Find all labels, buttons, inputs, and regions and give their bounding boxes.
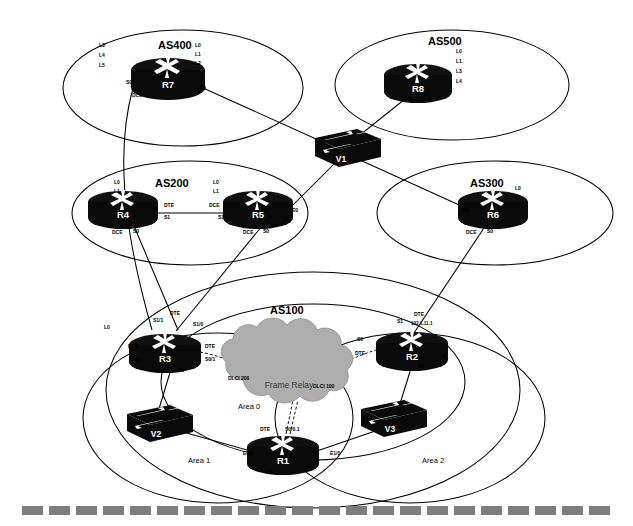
router-r4-label: R4: [117, 209, 130, 220]
iface-r1-e10: E1/0: [330, 450, 341, 456]
router-r8-label: R8: [412, 83, 424, 94]
footer-dash-segment: [373, 506, 394, 515]
iface-r6-dce: DCE: [466, 229, 477, 235]
router-r6-label: R6: [487, 209, 499, 220]
switch-v2[interactable]: V2: [127, 404, 193, 442]
label-dlci-100: DLCI 100: [313, 383, 335, 389]
iface-r7-l1: L1: [195, 51, 201, 57]
title-as400: AS400: [158, 39, 192, 51]
iface-r2-s0: S0: [357, 336, 363, 342]
footer-dash-segment: [238, 506, 259, 515]
iface-r8-e0: E0: [406, 96, 412, 102]
iface-r1-s001: S0/0.1: [285, 426, 300, 432]
router-r5-label: R5: [252, 209, 265, 220]
cloud-shape: [221, 318, 352, 403]
title-as300: AS300: [470, 177, 504, 189]
iface-r3-s10: S1/0: [193, 321, 204, 327]
iface-r2-s1: S1: [397, 318, 403, 324]
iface-r1-e00: E0/0: [243, 450, 254, 456]
footer-dash-segment: [535, 506, 556, 515]
iface-r3-e0: E0: [178, 367, 184, 373]
topology-canvas: Frame Relay R7 R8: [0, 0, 633, 526]
footer-dash-segment: [292, 506, 313, 515]
link-r6-v1: [360, 160, 468, 209]
iface-r5-s1: S1: [218, 214, 224, 220]
footer-dash-segment: [103, 506, 124, 515]
router-r5[interactable]: R5: [223, 190, 293, 229]
iface-r3-dte-right: DTE: [205, 343, 216, 349]
switch-v1-label: V1: [336, 154, 347, 164]
iface-r2-dte-top: DTE: [414, 311, 425, 317]
iface-r6-l1: L1: [515, 194, 521, 200]
iface-r3-dte-left: DTE: [128, 343, 139, 349]
title-as100: AS100: [270, 304, 304, 316]
router-r1-label: R1: [277, 455, 290, 466]
iface-r5-l0: L0: [213, 179, 219, 185]
router-r1[interactable]: R1: [247, 435, 319, 475]
iface-r8-l4: L4: [456, 78, 462, 84]
footer-dash-segment: [265, 506, 286, 515]
iface-r8-l3: L3: [456, 68, 462, 74]
frame-relay-cloud: Frame Relay: [221, 318, 352, 403]
router-r2[interactable]: R2: [376, 331, 448, 371]
iface-r7-l5: L5: [99, 62, 105, 68]
iface-r4-s1: S1: [164, 214, 170, 220]
iface-r4-s0: S0: [133, 228, 139, 234]
router-r3-label: R3: [159, 353, 171, 364]
footer-dash-segment: [22, 506, 43, 515]
title-as500: AS500: [428, 35, 462, 47]
router-r7-label: R7: [162, 79, 174, 90]
iface-r2-ip: 192.1.11.1: [411, 321, 433, 326]
footer-dash-segment: [589, 506, 610, 515]
iface-r3-s11: S1/1: [153, 317, 164, 323]
footer-dash-segment: [481, 506, 502, 515]
iface-r6-e0: E0: [463, 207, 469, 213]
router-r2-label: R2: [406, 351, 418, 362]
footer-dash-segment: [49, 506, 70, 515]
iface-r8-l0: L0: [456, 48, 462, 54]
label-dlci-200: DLCI 200: [228, 375, 250, 381]
iface-r7-e0: E0: [200, 85, 206, 91]
iface-r6-l0: L0: [515, 185, 521, 191]
label-area1: Area 1: [188, 456, 210, 465]
iface-r7-l2: L2: [195, 60, 201, 66]
switch-v3[interactable]: V3: [361, 399, 427, 437]
footer-dash-segment: [400, 506, 421, 515]
iface-r3-s00: S0/0: [130, 356, 141, 362]
footer-dash-segment: [427, 506, 448, 515]
iface-r2-dte-left: DTE: [355, 350, 366, 356]
switch-v1[interactable]: V1: [315, 128, 381, 167]
switch-v3-label: V3: [385, 424, 396, 434]
link-r7-v1: [203, 88, 325, 143]
link-r6-r2: [414, 228, 484, 333]
link-r5-r3: [176, 226, 262, 331]
iface-r8-l1: L1: [456, 58, 462, 64]
router-r3[interactable]: R3: [129, 333, 201, 373]
iface-r3-s01: S0/1: [205, 356, 216, 362]
iface-r7-dce: DCE: [132, 92, 143, 98]
switch-v2-label: V2: [151, 429, 162, 439]
iface-r7-l4: L4: [99, 52, 105, 58]
iface-r7-l3: L3: [99, 42, 105, 48]
iface-r2-e0: E0: [418, 363, 424, 369]
router-r8[interactable]: R8: [384, 63, 452, 103]
footer-dash-segment: [76, 506, 97, 515]
footer-dash-segment: [454, 506, 475, 515]
iface-r1-l0: L0: [266, 469, 272, 475]
footer-dash-segment: [562, 506, 583, 515]
cloud-label: Frame Relay: [265, 380, 314, 390]
iface-r5-s0: S0: [263, 228, 269, 234]
label-area0: Area 0: [238, 402, 260, 411]
label-area2: Area 2: [422, 456, 444, 465]
router-r4[interactable]: R4: [88, 190, 158, 229]
footer-dash-segment: [184, 506, 205, 515]
iface-r4-l1: L1: [114, 188, 120, 194]
iface-r7-s0: S0: [126, 79, 132, 85]
footer-dash-segment: [319, 506, 340, 515]
iface-r5-dce2: DCE: [243, 229, 254, 235]
link-v3-r1: [314, 429, 381, 452]
iface-r5-l1: L1: [213, 188, 219, 194]
iface-r3-dte-top: DTE: [170, 310, 181, 316]
network-topology-diagram: Frame Relay R7 R8: [0, 0, 633, 526]
iface-r5-e0: E0: [292, 207, 298, 213]
